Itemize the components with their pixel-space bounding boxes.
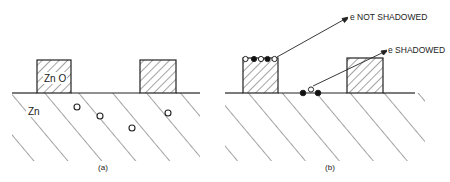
annotation-not-shadowed: e NOT SHADOWED bbox=[350, 12, 427, 22]
annotation-shadowed: e SHADOWED bbox=[388, 45, 445, 55]
electron-icon bbox=[265, 56, 270, 61]
label-zno: Zn O bbox=[44, 73, 66, 84]
electron-icon bbox=[251, 56, 256, 61]
vacancy-icon bbox=[243, 56, 248, 61]
electron-icon bbox=[300, 90, 306, 96]
arrowhead-icon bbox=[342, 17, 349, 23]
panel-b: e NOT SHADOWED e SHADOWED (b) bbox=[225, 11, 445, 172]
label-zn: Zn bbox=[28, 106, 40, 117]
vacancy-icon bbox=[308, 87, 313, 92]
vacancy-icon bbox=[97, 113, 103, 119]
caption-b: (b) bbox=[325, 163, 335, 172]
caption-a: (a) bbox=[98, 163, 108, 172]
diagram-canvas: Zn O Zn (a) bbox=[0, 0, 450, 182]
vacancy-icon bbox=[74, 104, 80, 110]
zno-island-b2 bbox=[347, 58, 383, 93]
zn-substrate-b bbox=[225, 93, 425, 161]
electron-icon bbox=[315, 90, 321, 96]
vacancy-icon bbox=[272, 56, 277, 61]
arrowhead-icon bbox=[381, 50, 388, 55]
arrow-not-shadowed bbox=[277, 19, 345, 57]
zno-island-b1 bbox=[243, 58, 278, 93]
zn-substrate-a bbox=[12, 93, 200, 161]
zno-island-a2 bbox=[140, 60, 176, 93]
vacancy-icon bbox=[129, 125, 135, 131]
vacancy-icon bbox=[165, 110, 171, 116]
panel-a: Zn O Zn (a) bbox=[12, 60, 200, 172]
vacancy-icon bbox=[258, 56, 263, 61]
